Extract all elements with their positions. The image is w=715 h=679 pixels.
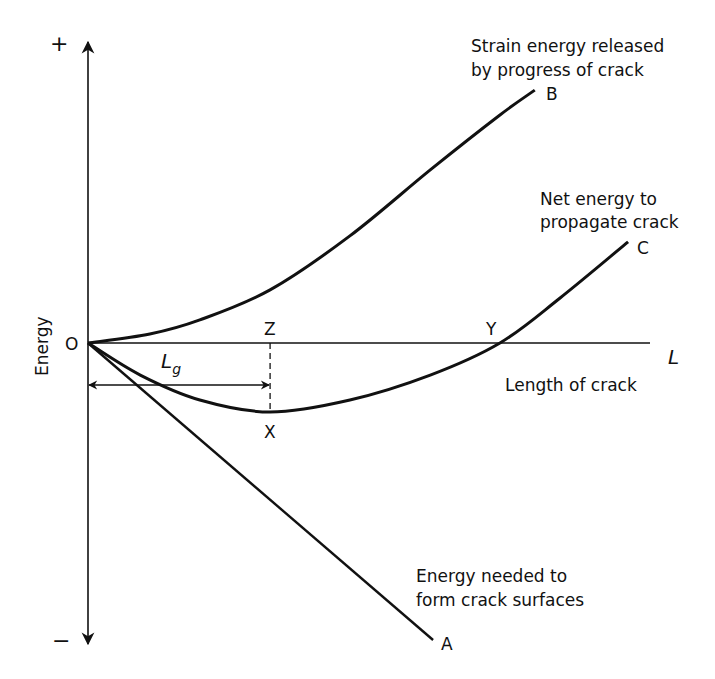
y-positive-label: + bbox=[50, 31, 68, 56]
origin-label: O bbox=[65, 334, 78, 354]
energy-crack-diagram: + − Energy O L Length of crack Lg Z X Y … bbox=[0, 0, 715, 679]
point-label-x: X bbox=[264, 422, 276, 442]
x-axis-symbol: L bbox=[668, 345, 679, 369]
legend-text-c: Net energy to propagate crack bbox=[540, 189, 679, 232]
curve-end-letter-c: C bbox=[637, 238, 649, 258]
point-label-z: Z bbox=[264, 319, 276, 339]
curve-strain-energy-B bbox=[88, 90, 535, 343]
lg-label: Lg bbox=[161, 349, 181, 377]
y-axis-label: Energy bbox=[32, 316, 52, 376]
point-label-y: Y bbox=[485, 319, 497, 339]
curve-end-letter-b: B bbox=[546, 84, 558, 104]
curve-end-letter-a: A bbox=[441, 634, 453, 654]
curve-surface-energy-A bbox=[88, 343, 433, 640]
legend-text-a: Energy needed to form crack surfaces bbox=[416, 566, 584, 610]
x-axis-label: Length of crack bbox=[505, 375, 637, 395]
y-negative-label: − bbox=[52, 628, 70, 653]
legend-text-b: Strain energy released by progress of cr… bbox=[471, 36, 670, 80]
